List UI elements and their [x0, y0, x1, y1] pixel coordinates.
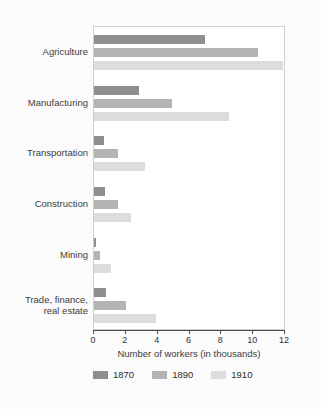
bar	[94, 136, 104, 145]
x-axis-title: Number of workers (in thousands)	[93, 348, 285, 359]
x-axis-tick	[157, 330, 158, 334]
bar-group	[94, 187, 284, 222]
bar	[94, 86, 139, 95]
x-axis: 024681012	[93, 330, 285, 331]
x-axis-tick	[93, 330, 94, 334]
x-axis-tick-label: 10	[247, 335, 257, 345]
chart-legend: 187018901910	[93, 369, 285, 380]
bar-group	[94, 288, 284, 323]
category-label: Trade, finance, real estate	[0, 294, 88, 316]
bar-group	[94, 86, 284, 121]
bar	[94, 112, 229, 121]
legend-label: 1870	[113, 369, 134, 380]
bar	[94, 301, 126, 310]
bar-group	[94, 136, 284, 171]
bar	[94, 61, 283, 70]
x-axis-tick	[189, 330, 190, 334]
bar	[94, 314, 156, 323]
x-axis-tick	[252, 330, 253, 334]
x-axis-tick-label: 0	[90, 335, 95, 345]
bar	[94, 200, 118, 209]
bar	[94, 251, 100, 260]
bar-group	[94, 238, 284, 273]
category-label: Transportation	[0, 147, 88, 158]
legend-item: 1890	[152, 369, 193, 380]
bar	[94, 238, 96, 247]
category-label: Construction	[0, 198, 88, 209]
category-label: Manufacturing	[0, 97, 88, 108]
category-label: Agriculture	[0, 46, 88, 57]
x-axis-tick-label: 12	[279, 335, 289, 345]
legend-label: 1910	[231, 369, 252, 380]
bar	[94, 288, 106, 297]
bar-group	[94, 35, 284, 70]
x-axis-tick-label: 8	[218, 335, 223, 345]
bar	[94, 48, 258, 57]
bar	[94, 162, 145, 171]
legend-item: 1910	[211, 369, 252, 380]
x-axis-tick-label: 4	[154, 335, 159, 345]
legend-swatch-icon	[152, 371, 167, 379]
x-axis-tick	[220, 330, 221, 334]
bar-chart-figure: AgricultureManufacturingTransportationCo…	[0, 0, 321, 409]
legend-label: 1890	[172, 369, 193, 380]
bar	[94, 35, 205, 44]
legend-swatch-icon	[93, 371, 108, 379]
category-axis-labels: AgricultureManufacturingTransportationCo…	[0, 26, 88, 330]
x-axis-tick-label: 2	[122, 335, 127, 345]
bar	[94, 149, 118, 158]
bar	[94, 264, 111, 273]
bar	[94, 213, 131, 222]
legend-swatch-icon	[211, 371, 226, 379]
bar	[94, 187, 105, 196]
bars-layer	[94, 27, 284, 329]
plot-area	[93, 26, 285, 330]
category-label: Mining	[0, 249, 88, 260]
x-axis-tick-label: 6	[186, 335, 191, 345]
x-axis-tick	[284, 330, 285, 334]
bar	[94, 99, 172, 108]
x-axis-tick	[125, 330, 126, 334]
legend-item: 1870	[93, 369, 134, 380]
